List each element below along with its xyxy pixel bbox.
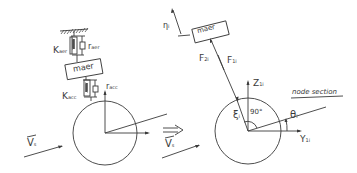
velocity-label-middle: Vs [165, 139, 174, 149]
xi-label: ξi [233, 110, 240, 120]
eta-label: ηi [163, 22, 169, 30]
node-section-underline [291, 96, 343, 98]
r-acc-label: racc [106, 83, 118, 91]
aeroelastic-diagram: Kaer raer maer Kacc racc Vs Vs ηi maer F… [0, 0, 357, 173]
lower-spring-damper-icon [83, 77, 98, 101]
angle-90-label: 90° [250, 109, 262, 116]
transition-arrow-icon [163, 125, 183, 135]
offset-arrow [173, 10, 181, 34]
upper-spring-damper-icon [70, 31, 85, 62]
diagram-drawing [0, 0, 357, 173]
k-acc-label: Kacc [62, 92, 76, 101]
left-chord-line [105, 114, 167, 133]
force-f1-label: F1i [227, 56, 237, 65]
y-axis-label: Y1i [300, 135, 310, 144]
velocity-label-left: Vs [27, 138, 36, 148]
node-section-label: node section [292, 89, 337, 96]
theta-label: θi [290, 110, 298, 120]
r-aer-label: raer [88, 43, 100, 51]
z-axis-label: Z1i [253, 79, 264, 88]
k-aer-label: Kaer [53, 46, 67, 55]
force-f2-label: F2i [199, 54, 209, 63]
